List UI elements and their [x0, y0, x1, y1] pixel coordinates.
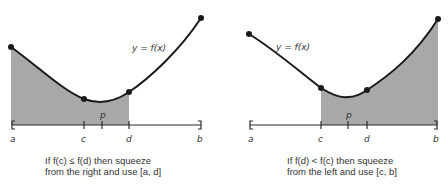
right-label-c: c — [318, 134, 323, 144]
left-caption-line1: If f(c) ≤ f(d) then squeeze — [45, 155, 161, 166]
left-shaded-region — [11, 47, 129, 125]
right-caption-line2: from the left and use [c, b] — [287, 166, 397, 177]
right-label-b: b — [433, 134, 439, 144]
left-point-d — [126, 89, 132, 95]
left-function-label: y = f(x) — [131, 43, 166, 53]
left-label-d: d — [126, 134, 132, 144]
right-point-b — [435, 16, 441, 22]
right-point-a — [246, 31, 252, 37]
left-point-c — [81, 96, 87, 102]
left-label-a: a — [10, 134, 16, 144]
right-caption-line1: If f(d) < f(c) then squeeze — [287, 155, 397, 166]
left-point-b — [198, 15, 204, 21]
left-caption: If f(c) ≤ f(d) then squeeze from the rig… — [45, 155, 161, 177]
left-caption-line2: from the right and use [a, d] — [45, 166, 161, 177]
right-shaded-region — [321, 19, 438, 125]
left-label-p: p — [99, 110, 106, 120]
right-label-p: p — [345, 110, 352, 120]
left-panel: p a c d b y = f(x) — [8, 15, 204, 144]
right-label-d: d — [364, 134, 370, 144]
right-point-c — [318, 85, 324, 91]
left-label-c: c — [81, 134, 86, 144]
right-function-label: y = f(x) — [275, 42, 310, 52]
left-point-a — [8, 44, 14, 50]
right-point-d — [364, 87, 370, 93]
left-label-b: b — [197, 134, 203, 144]
right-panel: p a c d b y = f(x) — [246, 16, 441, 144]
right-label-a: a — [248, 134, 254, 144]
right-caption: If f(d) < f(c) then squeeze from the lef… — [287, 155, 397, 177]
